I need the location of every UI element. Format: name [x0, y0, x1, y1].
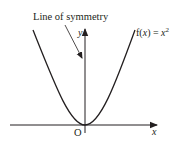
y-axis-label: y: [77, 27, 83, 38]
parabola-diagram: Line of symmetry y x O f(x) = x2: [0, 0, 182, 149]
annotation-line-of-symmetry: Line of symmetry: [33, 11, 109, 22]
origin-label: O: [74, 127, 82, 138]
x-axis-label: x: [151, 126, 157, 137]
parabola-curve: [33, 30, 135, 125]
function-label: f(x) = x2: [136, 26, 170, 39]
